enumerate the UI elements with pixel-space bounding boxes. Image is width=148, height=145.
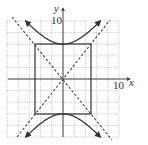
y-tick-label-10: 10 <box>51 15 62 26</box>
y-axis-label: y <box>54 3 59 14</box>
x-axis-label: x <box>129 77 134 88</box>
x-tick-label-10: 10 <box>113 80 124 91</box>
hyperbola-plot <box>0 0 148 145</box>
